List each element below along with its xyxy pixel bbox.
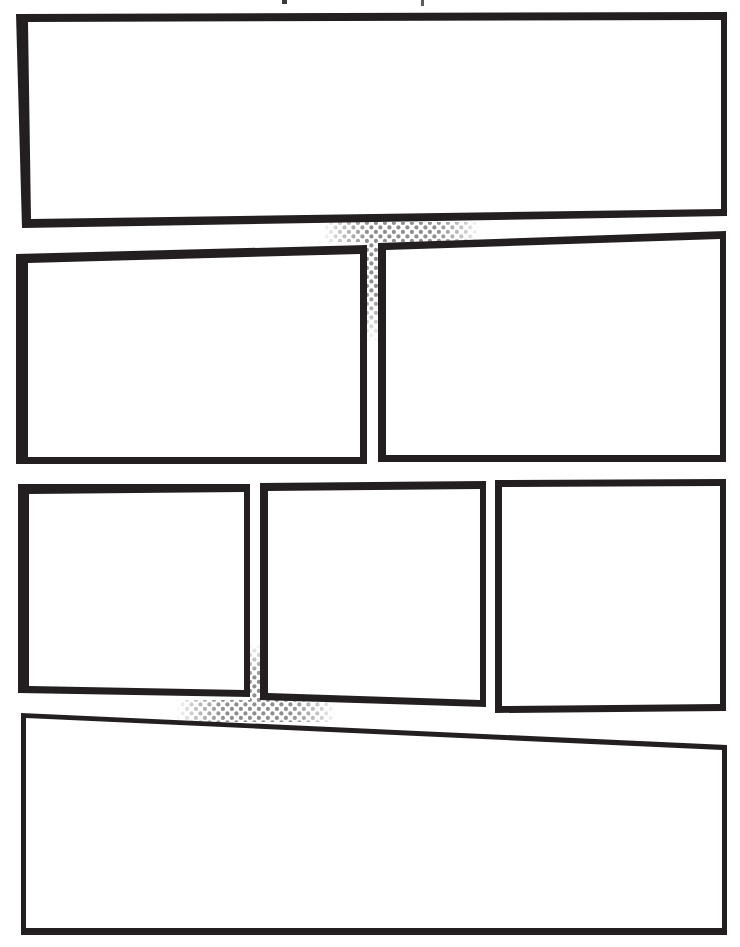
panel-3-art-area[interactable] <box>386 239 720 455</box>
panel-3[interactable] <box>378 231 726 462</box>
panel-1-art-area[interactable] <box>28 20 721 219</box>
panel-6[interactable] <box>495 479 726 713</box>
panel-5-art-area[interactable] <box>268 489 480 700</box>
comic-page-canvas <box>0 0 740 947</box>
panel-6-art-area[interactable] <box>502 486 720 706</box>
panel-4-art-area[interactable] <box>29 492 244 690</box>
panel-4[interactable] <box>18 484 250 697</box>
panel-5[interactable] <box>260 481 486 707</box>
panel-2-art-area[interactable] <box>28 254 360 457</box>
panel-1[interactable] <box>16 12 727 228</box>
halftone-accent-upper-horizontal <box>322 222 480 242</box>
panel-7-art-area[interactable] <box>26 718 722 928</box>
scan-artifacts <box>282 0 424 6</box>
panel-2[interactable] <box>16 245 367 464</box>
top-crop-mark-right-icon <box>421 0 424 6</box>
panel-7[interactable] <box>21 713 727 935</box>
comic-page: Blank Comic Book Page Template Six empty… <box>0 0 740 947</box>
halftone-accent-lower-horizontal <box>176 700 336 722</box>
top-crop-mark-left-icon <box>282 0 287 4</box>
